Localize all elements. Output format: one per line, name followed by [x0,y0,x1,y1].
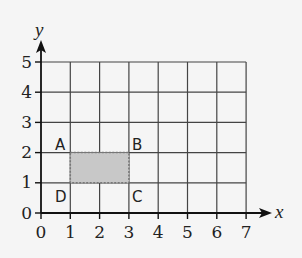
x-tick-5: 5 [182,222,193,242]
grid-lines [41,62,246,213]
coordinate-grid-diagram: 5 4 3 2 1 0 0 1 2 3 4 5 6 7 y x A B C D [0,0,302,258]
x-tick-6: 6 [211,222,222,242]
x-tick-3: 3 [123,222,134,242]
x-axis-label: x [274,201,284,222]
vertex-label-b: B [132,136,142,154]
x-tick-2: 2 [94,222,105,242]
y-tick-5: 5 [21,52,32,72]
x-tick-0: 0 [36,222,47,242]
shaded-rectangle [70,153,129,183]
vertex-label-d: D [55,188,67,206]
axes [41,50,262,213]
x-tick-labels: 0 1 2 3 4 5 6 7 [36,222,252,242]
y-tick-1: 1 [21,172,32,192]
y-tick-0: 0 [21,203,32,223]
y-tick-2: 2 [21,142,32,162]
vertex-label-a: A [55,136,66,154]
y-tick-4: 4 [21,82,32,102]
x-tick-7: 7 [241,222,252,242]
y-axis-label: y [33,19,44,40]
y-tick-3: 3 [21,112,32,132]
x-tick-4: 4 [153,222,164,242]
x-tick-1: 1 [65,222,76,242]
vertex-label-c: C [132,188,142,206]
y-tick-labels: 5 4 3 2 1 0 [21,52,32,223]
